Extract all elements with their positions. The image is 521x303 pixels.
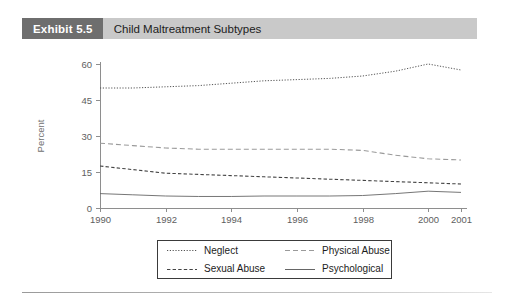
x-axis: 1990199219941996199820002001 (90, 208, 472, 225)
legend-item-sexual-abuse: Sexual Abuse (158, 263, 276, 274)
chart-legend: Neglect Physical Abuse Sexual Abuse Psyc… (157, 240, 392, 279)
legend-label: Neglect (204, 245, 238, 256)
series-line-psychological (100, 191, 461, 196)
y-tick-label: 60 (81, 59, 92, 70)
y-tick-label: 30 (81, 131, 92, 142)
legend-line-swatch-sexual-abuse (167, 265, 197, 273)
series-line-physical-abuse (100, 143, 461, 160)
legend-label: Physical Abuse (322, 245, 390, 256)
x-tick-label: 1990 (90, 214, 111, 225)
series-lines (100, 64, 461, 196)
y-axis-title: Percent (35, 119, 46, 152)
x-tick-label: 1994 (221, 214, 242, 225)
y-tick-label: 0 (87, 203, 92, 214)
x-tick-label: 2001 (451, 214, 472, 225)
legend-label: Sexual Abuse (204, 263, 265, 274)
y-axis: 015304560 (81, 59, 100, 214)
legend-line-swatch-psychological (285, 265, 315, 273)
series-line-sexual-abuse (100, 166, 461, 184)
x-tick-label: 1992 (156, 214, 177, 225)
x-tick-label: 1998 (353, 214, 374, 225)
series-line-neglect (100, 64, 461, 88)
footer-divider (22, 292, 492, 293)
y-tick-label: 15 (81, 167, 92, 178)
exhibit-header: Exhibit 5.5 Child Maltreatment Subtypes (22, 18, 477, 39)
legend-line-swatch-physical-abuse (285, 246, 315, 254)
exhibit-title: Child Maltreatment Subtypes (103, 18, 262, 39)
legend-item-neglect: Neglect (158, 245, 276, 256)
legend-item-psychological: Psychological (276, 263, 393, 274)
x-tick-label: 1996 (287, 214, 308, 225)
exhibit-number-badge: Exhibit 5.5 (22, 18, 103, 39)
legend-label: Psychological (322, 263, 383, 274)
y-tick-label: 45 (81, 95, 92, 106)
legend-line-swatch-neglect (167, 246, 197, 254)
legend-item-physical-abuse: Physical Abuse (276, 245, 393, 256)
x-tick-label: 2000 (418, 214, 439, 225)
